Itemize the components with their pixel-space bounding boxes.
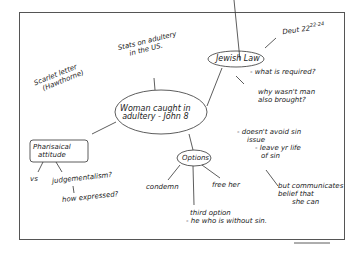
- options-node: Options: [182, 154, 209, 162]
- central-topic: Woman caught in adultery - John 8: [120, 105, 191, 121]
- belief-note: but communicates belief that she can: [278, 182, 343, 206]
- free-her-option: free her: [212, 181, 240, 189]
- pharisaical-node: Pharisaical attitude: [33, 143, 71, 159]
- vs-label: vs: [30, 175, 38, 183]
- condemn-option: condemn: [146, 183, 179, 191]
- connector-lines: [0, 0, 360, 261]
- third-option: third option - he who is without sin.: [190, 209, 267, 225]
- jewish-law-node: Jewish Law: [216, 55, 260, 63]
- jewish-law-question-1: - what is required?: [250, 68, 315, 76]
- jewish-law-question-2: why wasn't man also brought?: [258, 88, 315, 104]
- sin-note: - doesn't avoid sin issue - leave yr lif…: [237, 128, 301, 160]
